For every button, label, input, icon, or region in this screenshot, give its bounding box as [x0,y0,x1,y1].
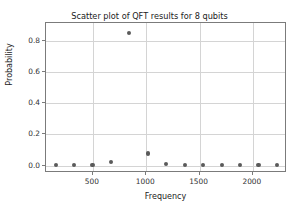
x-tick-label: 500 [85,177,99,186]
y-tick-mark [42,40,45,41]
y-tick-mark [42,165,45,166]
y-tick-mark [42,102,45,103]
scatter-point [72,163,76,167]
gridline-vertical [93,23,94,171]
gridline-horizontal [46,166,285,167]
scatter-point [183,163,187,167]
gridline-horizontal [46,103,285,104]
y-tick-mark [42,133,45,134]
x-tick-label: 1000 [136,177,155,186]
scatter-point [220,163,224,167]
scatter-point [164,162,168,166]
scatter-point [127,31,131,35]
scatter-point [90,163,94,167]
x-tick-mark [252,172,253,175]
gridline-vertical [146,23,147,171]
y-tick-label: 0.6 [10,67,40,76]
data-points-layer [46,23,285,171]
x-tick-label: 1500 [189,177,208,186]
grid-layer [46,23,285,171]
x-tick-mark [92,172,93,175]
gridline-horizontal [46,72,285,73]
y-axis-label: Probability [5,25,14,105]
y-tick-label: 0.0 [10,160,40,169]
gridline-vertical [253,23,254,171]
scatter-point [275,163,279,167]
scatter-point [146,151,150,155]
scatter-point [54,163,58,167]
scatter-point [256,163,260,167]
chart-title: Scatter plot of QFT results for 8 qubits [0,11,299,21]
x-tick-label: 2000 [242,177,261,186]
y-tick-mark [42,71,45,72]
y-tick-label: 0.4 [10,98,40,107]
x-tick-mark [145,172,146,175]
scatter-point [238,163,242,167]
scatter-plot-figure: Scatter plot of QFT results for 8 qubits… [0,0,299,210]
gridline-horizontal [46,41,285,42]
x-tick-mark [199,172,200,175]
gridline-horizontal [46,134,285,135]
scatter-point [201,163,205,167]
x-axis-label: Frequency [45,192,286,201]
scatter-point [109,160,113,164]
y-tick-label: 0.2 [10,129,40,138]
gridline-vertical [200,23,201,171]
plot-area [45,22,286,172]
y-tick-label: 0.8 [10,35,40,44]
